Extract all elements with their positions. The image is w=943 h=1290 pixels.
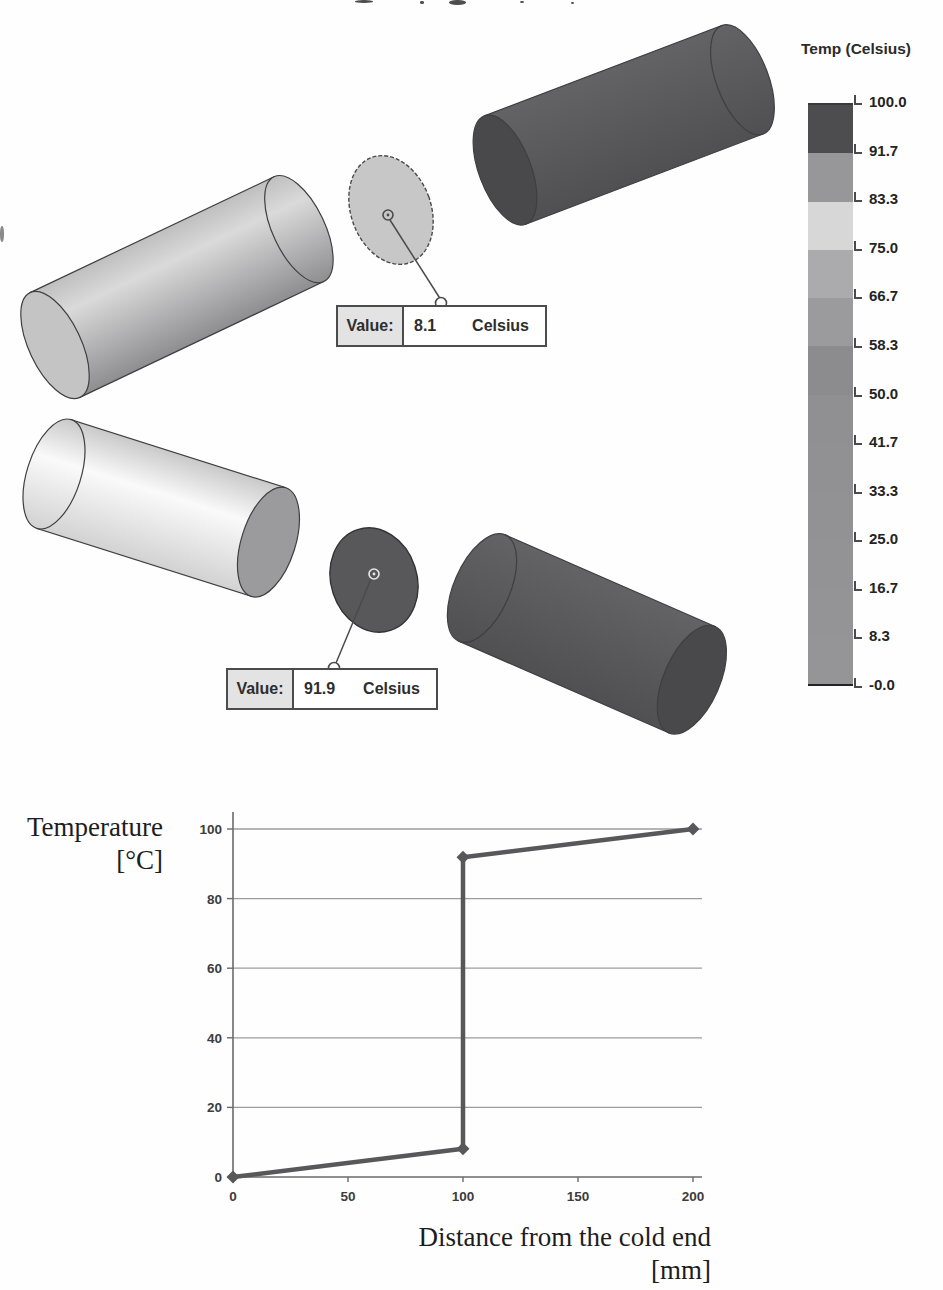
series-line <box>233 829 693 1177</box>
legend-tick <box>854 532 862 542</box>
legend-tick <box>854 95 862 105</box>
y-tick-label: 80 <box>207 892 222 907</box>
callout-value: 91.9 <box>304 680 335 698</box>
legend-segment <box>808 250 853 298</box>
legend-tick-label: 66.7 <box>869 287 898 304</box>
probe-callout-hot[interactable]: Value: 91.9 Celsius <box>226 668 438 710</box>
x-tick-label: 150 <box>567 1189 590 1204</box>
legend-tick <box>854 435 862 445</box>
data-point-marker <box>687 823 700 836</box>
legend-tick-label: 33.3 <box>869 482 898 499</box>
y-tick-label: 60 <box>207 961 222 976</box>
simulation-scene <box>0 0 943 770</box>
legend-segment <box>808 298 853 346</box>
x-tick-label: 0 <box>229 1189 237 1204</box>
callout-label: Value: <box>338 307 404 345</box>
legend-tick <box>854 241 862 251</box>
callout-value-cell: 91.9 Celsius <box>294 670 436 708</box>
cylinder-hot-bottom[interactable] <box>433 524 741 744</box>
y-axis-label-line1: Temperature <box>18 811 163 844</box>
legend-segment <box>808 153 853 201</box>
legend-tick-label: 8.3 <box>869 627 890 644</box>
callout-value-cell: 8.1 Celsius <box>404 307 545 345</box>
axis <box>233 812 702 1177</box>
legend-tick <box>854 484 862 494</box>
cylinder-cold-top[interactable] <box>7 166 348 409</box>
legend-tick <box>854 289 862 299</box>
legend-segment <box>808 346 853 394</box>
legend-segment <box>808 491 853 539</box>
disc-hot-face[interactable] <box>317 516 432 643</box>
x-axis-label-line1: Distance from the cold end <box>393 1221 711 1254</box>
probe-marker-dot <box>387 214 390 217</box>
y-tick-label: 100 <box>199 822 222 837</box>
legend-tick-label: 41.7 <box>869 433 898 450</box>
legend-segment <box>808 636 853 684</box>
x-tick-label: 100 <box>452 1189 475 1204</box>
data-point-marker <box>227 1171 240 1184</box>
legend-tick-label: 83.3 <box>869 190 898 207</box>
disc-cold-face[interactable] <box>334 144 447 277</box>
y-tick-label: 0 <box>214 1170 222 1185</box>
probe-callout-cold[interactable]: Value: 8.1 Celsius <box>336 305 547 347</box>
legend-labels: 100.091.783.375.066.758.350.041.733.325.… <box>853 103 941 686</box>
legend-segment <box>808 395 853 443</box>
legend-tick <box>854 678 862 688</box>
callout-unit: Celsius <box>472 317 529 335</box>
legend-segment <box>808 202 853 250</box>
legend-segment <box>808 443 853 491</box>
chart-x-axis-label: Distance from the cold end [mm] <box>393 1221 711 1287</box>
legend-bar <box>808 103 853 686</box>
legend-tick <box>854 581 862 591</box>
chart-y-axis-label: Temperature [°C] <box>18 811 163 877</box>
y-axis-label-line2: [°C] <box>18 844 163 877</box>
x-tick-label: 50 <box>340 1189 355 1204</box>
legend-tick-label: 16.7 <box>869 579 898 596</box>
x-tick-label: 200 <box>682 1189 705 1204</box>
legend-tick <box>854 338 862 348</box>
callout-label: Value: <box>228 670 294 708</box>
data-point-marker <box>457 1142 470 1155</box>
legend-segment <box>808 105 853 153</box>
callout-unit: Celsius <box>363 680 420 698</box>
legend-tick-label: 25.0 <box>869 530 898 547</box>
cylinder-hot-top[interactable] <box>460 16 787 233</box>
legend-tick-label: 75.0 <box>869 239 898 256</box>
legend-tick <box>854 387 862 397</box>
data-point-marker <box>457 851 470 864</box>
legend-title: Temp (Celsius) <box>801 40 911 58</box>
legend-tick-label: -0.0 <box>869 676 895 693</box>
y-tick-label: 40 <box>207 1031 222 1046</box>
cylinder-cold-bottom[interactable] <box>11 412 311 605</box>
legend-tick-label: 91.7 <box>869 142 898 159</box>
legend-segment <box>808 539 853 587</box>
callout-value: 8.1 <box>414 317 436 335</box>
legend-tick <box>854 144 862 154</box>
legend-tick <box>854 192 862 202</box>
legend-tick-label: 58.3 <box>869 336 898 353</box>
legend-tick-label: 100.0 <box>869 93 907 110</box>
legend-tick <box>854 629 862 639</box>
y-tick-label: 20 <box>207 1100 222 1115</box>
probe-marker-dot <box>373 573 376 576</box>
legend-segment <box>808 588 853 636</box>
x-axis-label-line2: [mm] <box>393 1254 711 1287</box>
scanned-figure-page: Value: 8.1 Celsius Value: 91.9 Celsius T… <box>0 0 943 1290</box>
legend-tick-label: 50.0 <box>869 385 898 402</box>
